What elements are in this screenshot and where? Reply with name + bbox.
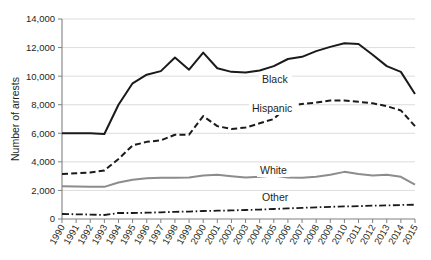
series-line-other bbox=[62, 205, 415, 215]
x-axis-tick-labels: 1990199119921993199419951996199719981999… bbox=[47, 223, 420, 247]
series-label-black: Black bbox=[262, 73, 288, 85]
series-label-white: White bbox=[260, 164, 287, 176]
arrests-line-chart: 02,0004,0006,0008,00010,00012,00014,000 … bbox=[0, 0, 431, 260]
series-line-black bbox=[62, 43, 415, 134]
y-tick-label-12000: 12,000 bbox=[26, 42, 55, 53]
gridlines-group bbox=[62, 19, 415, 190]
y-tick-label-6000: 6,000 bbox=[31, 128, 55, 139]
chart-container: 02,0004,0006,0008,00010,00012,00014,000 … bbox=[0, 0, 431, 260]
y-tick-label-8000: 8,000 bbox=[31, 99, 55, 110]
series-line-white bbox=[62, 172, 415, 187]
y-tick-label-14000: 14,000 bbox=[26, 13, 55, 24]
y-tick-label-10000: 10,000 bbox=[26, 71, 55, 82]
series-label-hispanic: Hispanic bbox=[252, 102, 292, 114]
y-axis-title: Number of arrests bbox=[9, 77, 21, 161]
y-axis-tick-labels: 02,0004,0006,0008,00010,00012,00014,000 bbox=[26, 13, 55, 224]
series-inline-labels: BlackHispanicWhiteOther bbox=[249, 73, 299, 204]
series-group bbox=[62, 43, 415, 215]
y-tick-label-4000: 4,000 bbox=[31, 156, 55, 167]
x-tick-label-2015: 2015 bbox=[400, 223, 420, 247]
y-tick-label-0: 0 bbox=[50, 213, 55, 224]
y-tick-label-2000: 2,000 bbox=[31, 185, 55, 196]
y-axis-group bbox=[58, 19, 62, 219]
series-label-other: Other bbox=[262, 191, 289, 203]
x-axis-group bbox=[62, 219, 415, 223]
